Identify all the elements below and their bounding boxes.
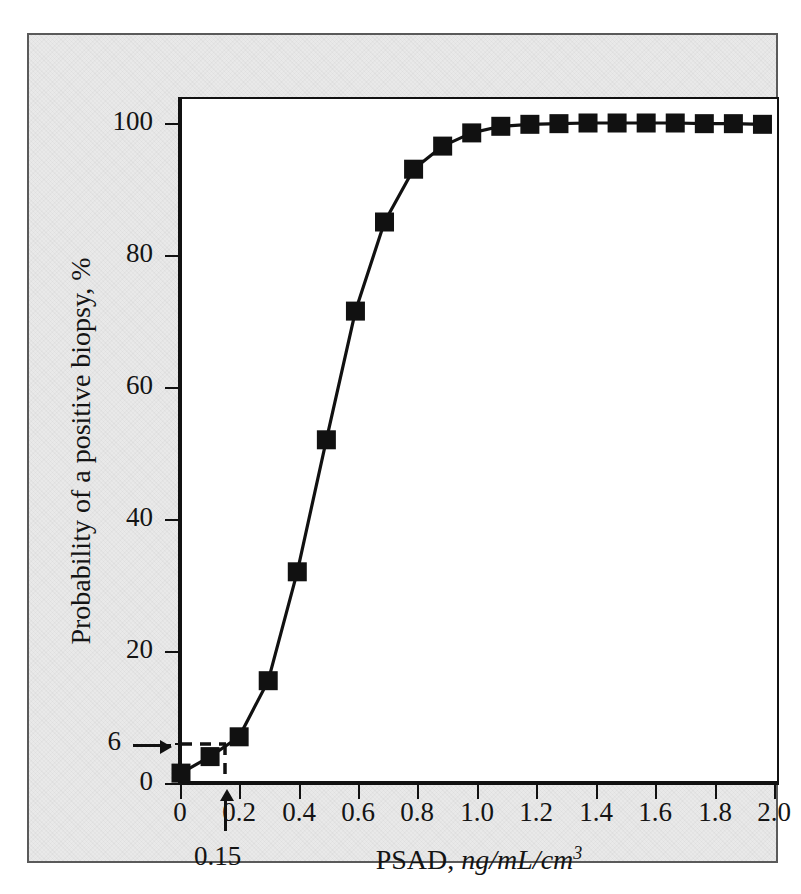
y-tick-100 (165, 123, 179, 125)
y-axis-label: Probability of a positive biopsy, % (65, 141, 97, 761)
plot-area (181, 99, 777, 783)
figure-frame: 100 80 60 40 20 6 0 Probability of a pos… (27, 33, 778, 863)
x-tick-label-1-6: 1.6 (625, 799, 685, 826)
y-tick-40 (165, 519, 179, 521)
x-reference-arrow (224, 801, 227, 831)
y-axis-line (178, 97, 182, 785)
x-tick-label-0: 0 (150, 799, 210, 826)
x-tick-label-1-0: 1.0 (447, 799, 507, 826)
x-tick-label-0-4: 0.4 (269, 799, 329, 826)
x-tick-label-1-4: 1.4 (566, 799, 626, 826)
y-tick-6 (175, 743, 181, 745)
plot-top-border (181, 97, 779, 99)
x-reference-label: 0.15 (194, 841, 241, 872)
x-axis-label-units: ng/mL/cm (461, 844, 573, 875)
plot-right-border (777, 97, 779, 783)
x-tick-label-1-8: 1.8 (685, 799, 745, 826)
y-tick-0 (165, 783, 179, 785)
y-tick-label-100: 100 (33, 108, 153, 135)
x-tick-label-0-6: 0.6 (328, 799, 388, 826)
y-tick-60 (165, 387, 179, 389)
y-tick-label-6: 6 (1, 728, 121, 755)
y-tick-label-0: 0 (33, 768, 153, 795)
y-reference-arrow (133, 744, 171, 747)
x-axis-label: PSAD, ng/mL/cm3 (181, 843, 777, 876)
y-tick-80 (165, 255, 179, 257)
figure-root: 100 80 60 40 20 6 0 Probability of a pos… (0, 0, 801, 894)
x-axis-label-exponent: 3 (573, 843, 582, 863)
x-axis-label-text: PSAD, (376, 844, 462, 875)
x-tick-label-0-2: 0.2 (209, 799, 269, 826)
x-tick-label-1-2: 1.2 (506, 799, 566, 826)
y-tick-20 (165, 651, 179, 653)
x-tick-label-2-0: 2.0 (744, 799, 801, 826)
x-tick-label-0-8: 0.8 (387, 799, 447, 826)
x-axis-line (179, 781, 779, 785)
